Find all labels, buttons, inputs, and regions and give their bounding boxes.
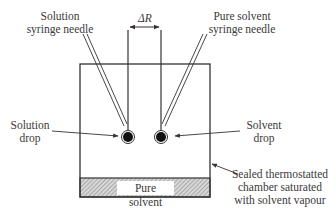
label-line: Solution	[8, 119, 52, 132]
solvent-drop-label: Solvent drop	[242, 119, 286, 145]
delta-r-label: ΔR	[134, 12, 156, 25]
label-line: syringe needle	[22, 23, 98, 36]
solvent-syringe-needle	[162, 34, 207, 126]
solvent-needle-label: Pure solvent syringe needle	[202, 10, 282, 36]
solution-drop-pointer	[52, 131, 118, 136]
label-line: Pure solvent	[202, 10, 282, 23]
reservoir-label: Pure solvent	[117, 181, 174, 195]
solvent-drop-pointer	[175, 131, 240, 136]
chamber-label: Sealed thermostatted chamber saturated w…	[228, 168, 332, 207]
label-line: drop	[8, 132, 52, 145]
label-line: Sealed thermostatted	[228, 168, 332, 181]
label-line: syringe needle	[202, 23, 282, 36]
label-line: Solution	[22, 10, 98, 23]
solvent-drop	[155, 131, 168, 144]
solution-drop	[122, 131, 135, 144]
label-line: chamber saturated	[228, 181, 332, 194]
sealed-chamber	[80, 64, 210, 197]
label-line: with solvent vapour	[228, 194, 332, 207]
label-line: Solvent	[242, 119, 286, 132]
solution-needle-label: Solution syringe needle	[22, 10, 98, 36]
label-line: drop	[242, 132, 286, 145]
solution-syringe-needle	[83, 34, 127, 126]
solution-drop-label: Solution drop	[8, 119, 52, 145]
